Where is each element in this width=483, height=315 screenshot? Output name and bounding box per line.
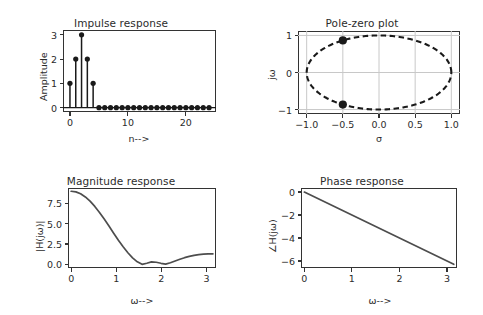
ytick-mark [295, 35, 299, 36]
xtick-mark [378, 114, 379, 118]
xtick-mark [69, 112, 70, 116]
ytick-label: 0 [25, 102, 57, 113]
xaxis-label-impulse-response: n--> [129, 133, 150, 144]
xtick-label: 1.0 [444, 119, 459, 130]
xtick-label: 0 [67, 117, 73, 128]
panel-phase-response: Phase response 0123−6−4−20 ω--> ∠H(jω) [241, 157, 483, 315]
xtick-label: −1.0 [295, 119, 318, 130]
ytick-mark [298, 214, 302, 215]
yaxis-label-pole-zero-plot: jω [266, 69, 277, 80]
ytick-mark [65, 203, 69, 204]
xaxis-label-pole-zero-plot: σ [376, 133, 382, 144]
xtick-mark [127, 112, 128, 116]
xtick-label: 0 [301, 273, 307, 284]
xtick-label: 2 [158, 273, 164, 284]
ytick-mark [60, 107, 64, 108]
ytick-mark [60, 83, 64, 84]
ytick-label: 0 [263, 187, 295, 198]
xtick-label: 1 [349, 273, 355, 284]
xtick-label: 1 [113, 273, 119, 284]
xtick-mark [71, 268, 72, 272]
xtick-mark [185, 112, 186, 116]
yaxis-label-magnitude-response: |H(jω)| [34, 220, 45, 252]
ytick-mark [60, 34, 64, 35]
ytick-mark [65, 243, 69, 244]
ytick-label: 3 [25, 29, 57, 40]
ytick-label: 0.0 [30, 259, 62, 270]
ytick-mark [60, 59, 64, 60]
ytick-mark [298, 260, 302, 261]
ytick-label: 1 [260, 30, 292, 41]
yaxis-label-phase-response: ∠H(jω) [267, 219, 278, 253]
xtick-label: 0.5 [408, 119, 423, 130]
xtick-label: −0.5 [331, 119, 354, 130]
xtick-mark [351, 268, 352, 272]
xaxis-label-phase-response: ω--> [369, 295, 392, 306]
ytick-mark [295, 72, 299, 73]
xtick-mark [446, 268, 447, 272]
ytick-label: 7.5 [30, 198, 62, 209]
xtick-label: 0 [68, 273, 74, 284]
xtick-mark [304, 268, 305, 272]
panel-impulse-response: Impulse response 010200123 n--> Amplitud… [0, 0, 242, 158]
ytick-mark [298, 191, 302, 192]
ytick-mark [295, 109, 299, 110]
xtick-label: 0.0 [371, 119, 386, 130]
xtick-label: 3 [444, 273, 450, 284]
xtick-label: 20 [180, 117, 192, 128]
xtick-mark [206, 268, 207, 272]
xtick-mark [116, 268, 117, 272]
figure-canvas: Impulse response 010200123 n--> Amplitud… [0, 0, 483, 315]
xtick-label: 2 [396, 273, 402, 284]
panel-pole-zero-plot: Pole-zero plot −1.0−0.50.00.51.0−101 σ j… [241, 0, 483, 158]
xtick-mark [161, 268, 162, 272]
panel-magnitude-response: Magnitude response 01230.02.55.07.5 ω-->… [0, 157, 242, 315]
xtick-label: 10 [122, 117, 134, 128]
ytick-mark [65, 223, 69, 224]
yaxis-label-impulse-response: Amplitude [38, 52, 49, 101]
xtick-mark [342, 114, 343, 118]
ytick-label: −6 [263, 256, 295, 267]
ytick-label: −1 [260, 104, 292, 115]
xaxis-label-magnitude-response: ω--> [131, 295, 154, 306]
ytick-mark [65, 264, 69, 265]
ytick-mark [298, 237, 302, 238]
xtick-mark [399, 268, 400, 272]
xtick-mark [451, 114, 452, 118]
xtick-mark [415, 114, 416, 118]
plot-pole-zero [241, 0, 483, 158]
xtick-mark [306, 114, 307, 118]
xtick-label: 3 [203, 273, 209, 284]
